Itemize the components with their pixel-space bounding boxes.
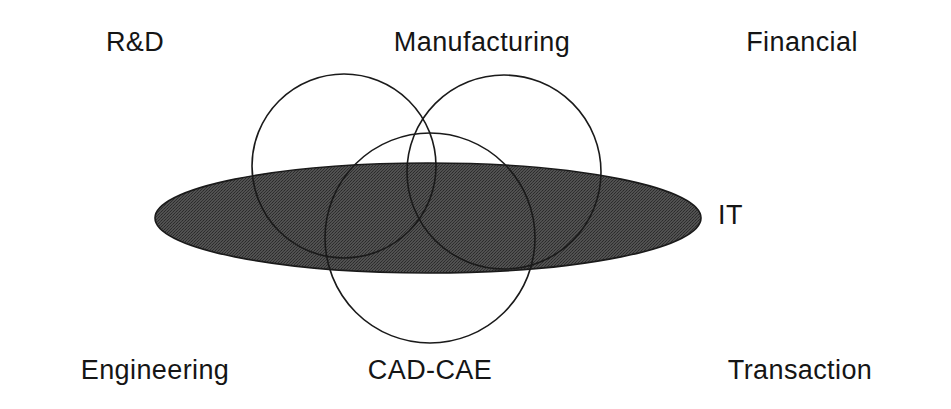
label-it: IT xyxy=(718,202,743,229)
label-cad-cae: CAD-CAE xyxy=(368,357,492,384)
label-rnd: R&D xyxy=(106,29,164,56)
diagram-canvas: R&D Manufacturing Financial IT Engineeri… xyxy=(0,0,951,409)
label-manufacturing: Manufacturing xyxy=(394,29,570,56)
label-financial: Financial xyxy=(746,29,858,56)
label-engineering: Engineering xyxy=(81,357,230,384)
label-transaction: Transaction xyxy=(728,357,872,384)
venn-diagram-graphic xyxy=(0,0,951,409)
it-ellipse-shape xyxy=(155,163,701,273)
